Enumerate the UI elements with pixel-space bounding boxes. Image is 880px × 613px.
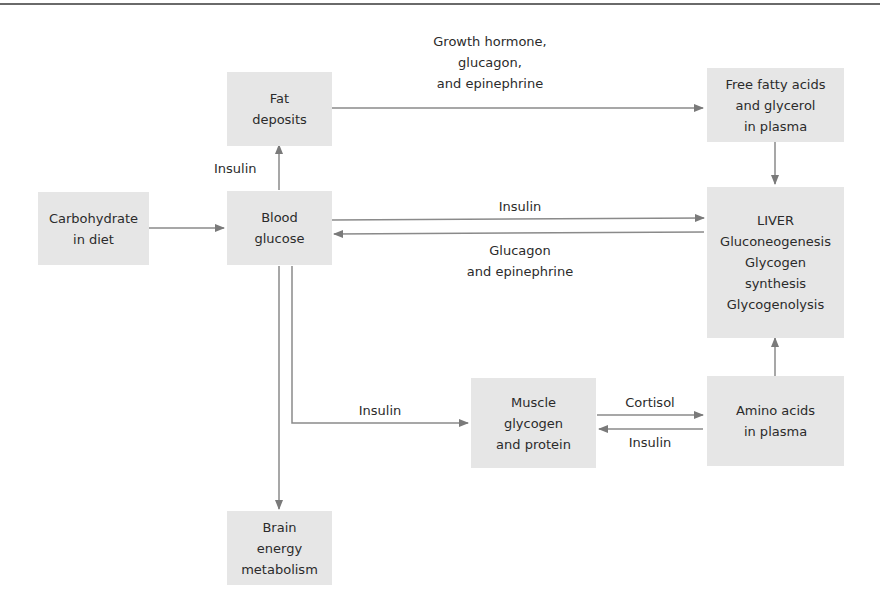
node-fat-deposits: Fat deposits bbox=[227, 72, 332, 146]
node-text: Amino acids bbox=[736, 400, 815, 421]
label-text: glucagon, bbox=[400, 52, 580, 73]
label-text: Insulin bbox=[610, 432, 690, 453]
edge-label-liver-to-glucose: Glucagon and epinephrine bbox=[440, 240, 600, 282]
label-text: Insulin bbox=[214, 158, 274, 179]
node-text: Glycogenolysis bbox=[727, 294, 824, 315]
edge-label-glucose-to-muscle: Insulin bbox=[340, 400, 420, 421]
node-text: Free fatty acids bbox=[725, 74, 825, 95]
node-text: Gluconeogenesis bbox=[720, 231, 831, 252]
label-text: and epinephrine bbox=[400, 73, 580, 94]
label-text: Insulin bbox=[340, 400, 420, 421]
node-text: in diet bbox=[73, 229, 114, 250]
node-text: and glycerol bbox=[736, 95, 816, 116]
node-text: glycogen bbox=[504, 413, 563, 434]
label-text: Cortisol bbox=[610, 392, 690, 413]
edge-label-glucose-to-fat: Insulin bbox=[214, 158, 274, 179]
node-free-fatty-acids: Free fatty acids and glycerol in plasma bbox=[707, 68, 844, 142]
label-text: Glucagon bbox=[440, 240, 600, 261]
node-text: and protein bbox=[496, 434, 571, 455]
node-text: synthesis bbox=[745, 273, 806, 294]
node-text: Blood bbox=[261, 207, 298, 228]
label-text: Insulin bbox=[470, 196, 570, 217]
node-text: deposits bbox=[252, 109, 307, 130]
node-text: in plasma bbox=[744, 116, 807, 137]
node-text: energy bbox=[257, 538, 302, 559]
node-text: Brain bbox=[262, 517, 296, 538]
node-brain-energy-metabolism: Brain energy metabolism bbox=[227, 511, 332, 585]
edge-label-glucose-to-liver: Insulin bbox=[470, 196, 570, 217]
node-carbohydrate-in-diet: Carbohydrate in diet bbox=[38, 192, 149, 265]
node-text: Glycogen bbox=[745, 252, 806, 273]
node-text: in plasma bbox=[744, 421, 807, 442]
node-liver: LIVER Gluconeogenesis Glycogen synthesis… bbox=[707, 187, 844, 338]
node-text: Fat bbox=[270, 88, 289, 109]
node-blood-glucose: Blood glucose bbox=[227, 191, 332, 265]
node-text: glucose bbox=[255, 228, 305, 249]
node-muscle-glycogen-protein: Muscle glycogen and protein bbox=[471, 378, 596, 468]
node-text: Carbohydrate bbox=[49, 208, 138, 229]
node-text: metabolism bbox=[241, 559, 318, 580]
node-amino-acids: Amino acids in plasma bbox=[707, 376, 844, 466]
node-text: LIVER bbox=[757, 210, 794, 231]
label-text: Growth hormone, bbox=[400, 31, 580, 52]
edge-label-amino-to-muscle: Insulin bbox=[610, 432, 690, 453]
node-text: Muscle bbox=[511, 392, 556, 413]
label-text: and epinephrine bbox=[440, 261, 600, 282]
edge-label-fat-to-ffa: Growth hormone, glucagon, and epinephrin… bbox=[400, 31, 580, 94]
edge-label-muscle-to-amino: Cortisol bbox=[610, 392, 690, 413]
